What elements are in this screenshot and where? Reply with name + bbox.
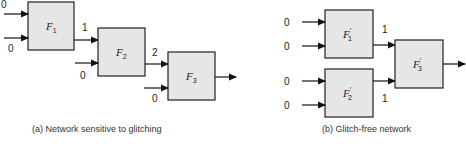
f1-input-bottom-value: 0	[8, 43, 14, 54]
network-a: F1 0 0 1 F2 0 2 F3 0	[1, 0, 236, 104]
caption-a: (a) Network sensitive to glitching	[32, 124, 162, 134]
block-f3: F3	[168, 52, 215, 100]
f2p-input-top-value: 0	[284, 76, 290, 87]
block-f3-prime: F′3	[395, 40, 443, 88]
block-f2: F2	[98, 28, 145, 76]
svg-text:F′1: F′1	[342, 27, 352, 42]
f2-output-value: 2	[152, 47, 158, 58]
f2-input-bottom-value: 0	[80, 70, 86, 81]
network-b: F′1 0 0 F′2 0 0 1 1 F′3	[284, 10, 465, 117]
svg-text:F′2: F′2	[342, 86, 352, 101]
f1p-output-value: 1	[382, 24, 388, 35]
svg-text:F′3: F′3	[412, 57, 422, 72]
block-f1: F1	[28, 2, 74, 50]
f2p-output-value: 1	[382, 93, 388, 104]
f1p-input-top-value: 0	[284, 17, 290, 28]
caption-b: (b) Glitch-free network	[322, 124, 411, 134]
block-f1-prime: F′1	[325, 10, 373, 58]
f1-input-top-value: 0	[1, 0, 7, 10]
f3-input-bottom-value: 0	[152, 93, 158, 104]
f2p-input-bottom-value: 0	[284, 100, 290, 111]
block-f2-prime: F′2	[325, 69, 373, 117]
f1p-input-bottom-value: 0	[284, 41, 290, 52]
f1-output-value: 1	[82, 22, 88, 33]
